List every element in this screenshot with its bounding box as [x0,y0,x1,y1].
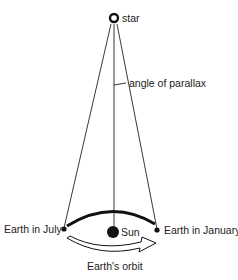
earth-july-label: Earth in July [4,223,63,235]
angle-of-parallax-label: angle of parallax [129,77,207,89]
earth-july-dot [61,226,66,231]
star-icon [110,14,118,22]
orbit-arc [67,211,155,226]
sight-line-january [117,24,157,229]
star-label: star [122,12,140,24]
sight-line-july [64,24,111,228]
parallax-diagram: star angle of parallax Sun Earth in July… [0,0,238,280]
sun-icon [107,226,119,238]
sun-label: Sun [121,226,140,238]
orbit-direction-arrow-icon [67,236,156,252]
earth-january-dot [154,227,159,232]
parallax-angle-marker [114,83,126,85]
earths-orbit-label: Earth's orbit [87,260,143,272]
earth-january-label: Earth in January [164,224,238,236]
